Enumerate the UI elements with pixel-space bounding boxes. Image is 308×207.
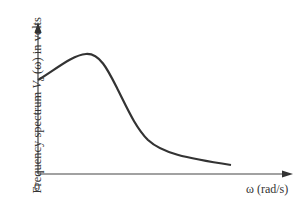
y-axis-label: Frequency spectrum Va (ω) in volts bbox=[30, 5, 47, 205]
x-axis-arrow-icon bbox=[282, 171, 293, 178]
chart: Frequency spectrum Va (ω) in volts 0 ω (… bbox=[0, 0, 308, 207]
spectrum-curve bbox=[38, 54, 231, 165]
x-axis-label: ω (rad/s) bbox=[246, 182, 288, 197]
origin-label: 0 bbox=[34, 180, 40, 195]
